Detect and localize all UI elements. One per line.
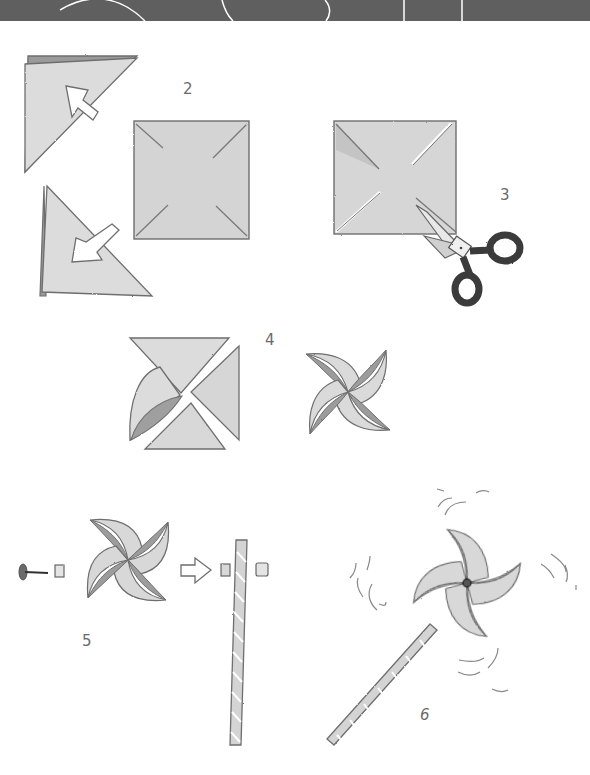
step4-folding-pinwheel	[130, 338, 239, 449]
stick-icon	[230, 540, 247, 745]
pin-icon	[19, 564, 48, 580]
step-number-4: 4	[265, 333, 275, 348]
step6-pinwheel	[402, 518, 532, 648]
step-number-3: 3	[500, 188, 510, 203]
step-number-6: 6	[420, 708, 430, 723]
bead-icon	[221, 564, 230, 576]
stick-icon	[327, 624, 437, 745]
scissors-icon	[416, 205, 520, 303]
step2-creased-square	[134, 121, 249, 239]
step2-fold-triangle-top	[25, 56, 137, 172]
bead-icon	[256, 563, 268, 576]
illustration	[0, 0, 590, 775]
step4-pinwheel	[306, 350, 390, 434]
step3-cut-square	[334, 121, 456, 234]
arrow-icon	[181, 558, 211, 583]
bead-icon	[55, 565, 64, 577]
step-number-5: 5	[82, 634, 92, 649]
step-number-2: 2	[183, 82, 193, 97]
step5-pinwheel	[87, 519, 168, 600]
